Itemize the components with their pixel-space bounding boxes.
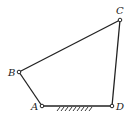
label-a: A (30, 101, 38, 112)
joint-c (118, 18, 122, 22)
joint-b (17, 70, 21, 74)
linkage-diagram: A B C D (0, 0, 134, 120)
links (19, 20, 120, 106)
joint-d (110, 104, 114, 108)
label-d: D (115, 101, 124, 112)
ground-hatching (57, 107, 92, 111)
link-cd (112, 20, 120, 106)
link-bc (19, 20, 120, 72)
joints (17, 18, 122, 108)
label-c: C (116, 5, 124, 16)
label-b: B (7, 67, 15, 78)
joint-a (40, 104, 44, 108)
